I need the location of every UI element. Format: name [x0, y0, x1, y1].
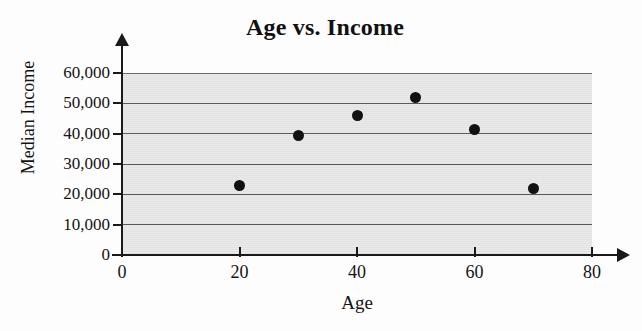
x-axis-tick	[356, 247, 358, 257]
gridline	[122, 103, 592, 104]
data-point	[234, 180, 245, 191]
x-axis-tick-label: 40	[327, 262, 387, 282]
y-axis-tick	[113, 72, 123, 74]
gridline	[122, 194, 592, 195]
data-point	[410, 92, 421, 103]
x-axis-tick	[591, 247, 593, 257]
y-axis-title: Median Income	[18, 33, 39, 203]
x-axis-tick-label: 20	[210, 262, 270, 282]
x-axis-line	[112, 254, 619, 256]
gridline	[122, 164, 592, 165]
chart-title: Age vs. Income	[0, 14, 642, 41]
y-axis-arrow-icon	[115, 33, 129, 46]
gridline	[122, 224, 592, 225]
data-point	[528, 183, 539, 194]
y-axis-tick	[113, 102, 123, 104]
gridline	[122, 133, 592, 134]
y-axis-tick	[113, 193, 123, 195]
x-axis-tick-label: 60	[445, 262, 505, 282]
chart-figure: Age vs. Income 010,00020,00030,00040,000…	[0, 0, 642, 331]
chart-title-text: Age vs. Income	[246, 14, 404, 40]
x-axis-tick	[121, 247, 123, 257]
y-axis-tick	[113, 163, 123, 165]
x-axis-tick-label: 0	[92, 262, 152, 282]
data-point	[352, 110, 363, 121]
data-point	[293, 130, 304, 141]
y-axis-tick	[113, 224, 123, 226]
y-axis-tick-label: 0	[10, 246, 110, 263]
x-axis-tick	[239, 247, 241, 257]
gridline	[122, 73, 592, 74]
x-axis-arrow-icon	[617, 248, 630, 262]
data-point	[469, 124, 480, 135]
x-axis-tick	[474, 247, 476, 257]
x-axis-title: Age	[122, 292, 592, 314]
x-axis-tick-label: 80	[562, 262, 622, 282]
y-axis-tick-label: 10,000	[10, 216, 110, 233]
y-axis-tick	[113, 133, 123, 135]
